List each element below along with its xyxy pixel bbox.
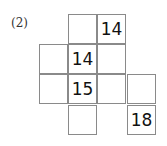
problem-label: (2) <box>11 16 28 30</box>
grid-cell <box>39 44 68 74</box>
grid-cell <box>68 105 97 135</box>
grid-cell <box>39 74 68 104</box>
grid-cell: 14 <box>97 14 126 44</box>
grid-cell: 15 <box>68 74 97 104</box>
grid-cell <box>68 14 97 44</box>
grid-cell <box>97 74 126 104</box>
grid-cell <box>97 44 126 74</box>
grid-cell: 18 <box>127 105 156 135</box>
grid-cell: 14 <box>68 44 97 74</box>
grid-cell <box>127 74 156 104</box>
